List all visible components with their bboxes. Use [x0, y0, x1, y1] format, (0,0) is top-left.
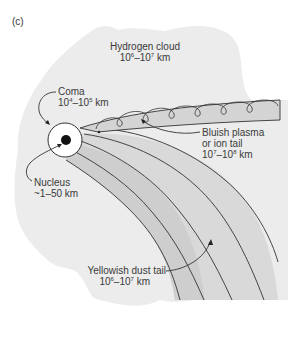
- plasma-tail-line1: Bluish plasma: [202, 127, 264, 138]
- nucleus-size: ~1–50 km: [34, 188, 78, 199]
- dust-tail-label: Yellowish dust tail 106–107 km: [60, 265, 166, 287]
- plasma-tail-label: Bluish plasma or ion tail 107–108 km: [202, 127, 264, 160]
- panel-label: (c): [12, 16, 24, 27]
- nucleus-label: Nucleus ~1–50 km: [34, 177, 78, 199]
- plasma-tail-line2: or ion tail: [202, 138, 264, 149]
- dust-tail-name: Yellowish dust tail: [60, 265, 166, 276]
- hydrogen-cloud-size: 106–107 km: [100, 52, 190, 63]
- hydrogen-cloud-name: Hydrogen cloud: [100, 41, 190, 52]
- dust-tail-size: 106–107 km: [60, 276, 166, 287]
- coma-label: Coma 104–105 km: [58, 86, 109, 108]
- plasma-tail-size: 107–108 km: [202, 149, 264, 160]
- nucleus-name: Nucleus: [34, 177, 78, 188]
- plasma-tail-origin-dot: [98, 131, 101, 134]
- comet-structure-diagram: (c) Hydrogen cloud 106–107 km Coma 104–1…: [0, 0, 291, 347]
- coma-name: Coma: [58, 86, 109, 97]
- hydrogen-cloud-label: Hydrogen cloud 106–107 km: [100, 41, 190, 63]
- coma-size: 104–105 km: [58, 97, 109, 108]
- nucleus: [61, 135, 71, 145]
